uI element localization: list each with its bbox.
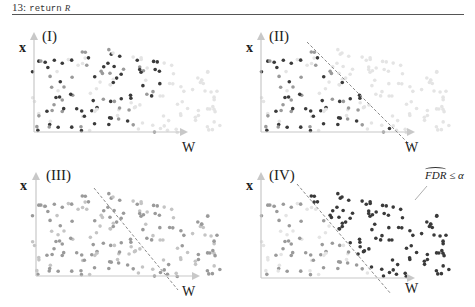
line-number: 13: (12, 1, 26, 13)
y-axis-label-I: x (19, 40, 26, 56)
x-axis-label-II: W (405, 140, 418, 156)
panel-label-III: (III) (46, 167, 71, 184)
panel-label-I: (I) (42, 28, 57, 45)
fdr-inequality: ≤ α (446, 169, 463, 181)
return-keyword: return (29, 4, 61, 14)
panel-label-IV: (IV) (269, 167, 295, 184)
horizontal-rule (12, 14, 464, 15)
y-axis-label-IV: x (246, 178, 253, 194)
return-variable: R (65, 3, 71, 13)
scatter-plot-III (10, 166, 240, 306)
panel-I: (I) x W (10, 22, 240, 162)
panel-label-II: (II) (269, 28, 289, 45)
panel-IV: (IV) x W FDR ≤ α (247, 166, 475, 306)
algorithm-line: 13: return R (12, 0, 475, 14)
x-axis-label-I: W (182, 140, 195, 156)
y-axis-label-II: x (246, 40, 253, 56)
x-axis-label-III: W (182, 284, 195, 300)
panel-III: (III) x W (10, 166, 240, 306)
scatter-plot-IV (247, 166, 475, 306)
fdr-hat-text: FDR (425, 169, 446, 181)
y-axis-label-III: x (20, 178, 27, 194)
panel-II: (II) x W (247, 22, 475, 162)
x-axis-label-IV: W (405, 281, 418, 297)
fdr-annotation: FDR ≤ α (425, 169, 464, 181)
